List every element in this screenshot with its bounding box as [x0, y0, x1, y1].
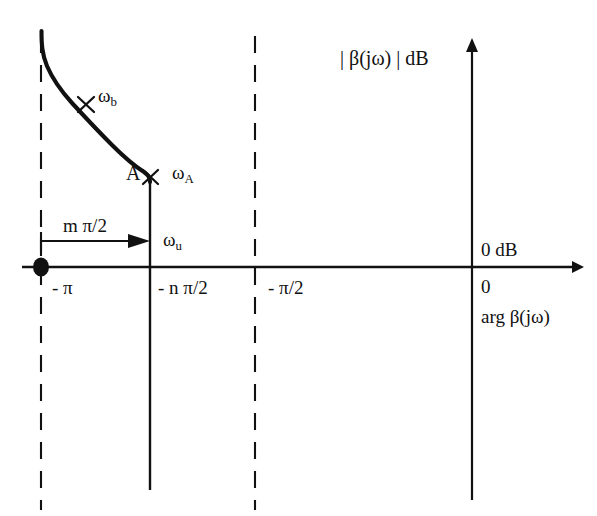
phase-margin-arrowhead — [128, 234, 150, 248]
zero-db-label: 0 dB — [481, 240, 517, 259]
omega-b-subscript: b — [111, 94, 117, 109]
phase-margin-label: m π/2 — [63, 216, 107, 235]
arg-axis-label: arg β(jω) — [481, 307, 550, 326]
beta-locus-group — [42, 31, 151, 182]
omega-u-subscript: u — [176, 238, 182, 253]
omega-b-symbol: ω — [98, 85, 111, 106]
omega-a-label: ωA — [172, 163, 194, 182]
tick-label-minus-pi-over-2: - π/2 — [268, 278, 303, 297]
omega-a-symbol: ω — [172, 162, 185, 183]
markers-group — [33, 97, 158, 277]
tick-label-minus-pi: - π — [52, 278, 73, 297]
omega-u-label: ωu — [163, 230, 182, 249]
tick-label-zero: 0 — [481, 277, 491, 296]
omega-u-symbol: ω — [163, 229, 176, 250]
point-a-label: A — [126, 163, 140, 183]
nichols-diagram: | β(jω) | dB ωb A ωA m π/2 ωu 0 dB - π -… — [0, 0, 597, 516]
omega-b-label: ωb — [98, 86, 117, 105]
magnitude-axis-arrowhead — [466, 38, 478, 52]
magnitude-axis-label: | β(jω) | dB — [340, 48, 429, 68]
beta-locus-curve — [42, 31, 151, 182]
omega-b-x-marker — [78, 97, 94, 112]
minus-pi-dot-marker — [33, 258, 49, 277]
tick-label-minus-n-pi-over-2: - n π/2 — [158, 278, 208, 297]
axes-group — [22, 38, 584, 500]
phase-axis-arrowhead — [572, 261, 584, 273]
omega-a-subscript: A — [185, 171, 194, 186]
